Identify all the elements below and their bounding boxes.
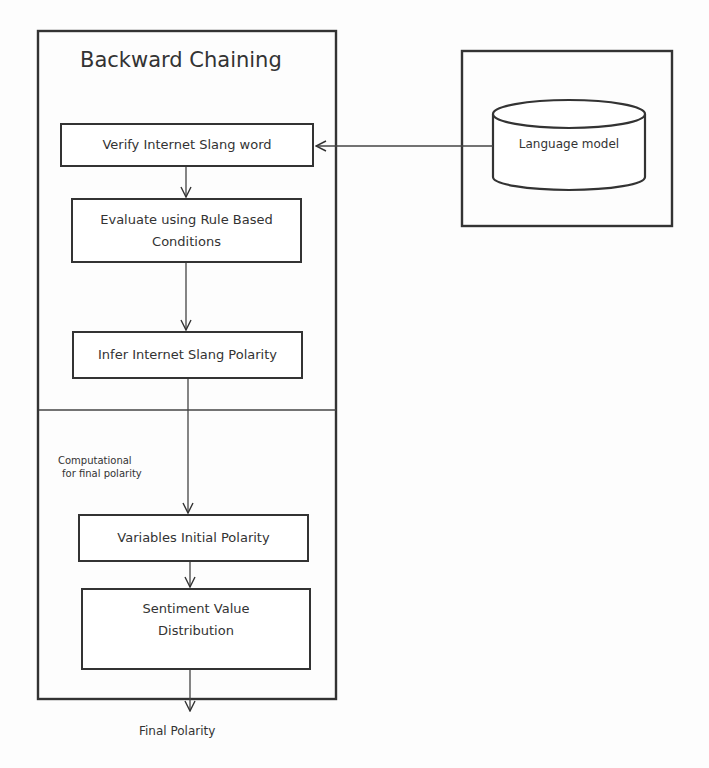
step-infer-label: Infer Internet Slang Polarity bbox=[98, 344, 277, 366]
final-polarity-label: Final Polarity bbox=[139, 724, 215, 738]
step-infer-slang-polarity: Infer Internet Slang Polarity bbox=[72, 331, 303, 379]
step-sentiment-value-distribution: Sentiment Value Distribution bbox=[81, 588, 311, 670]
computational-label-line2: for final polarity bbox=[58, 467, 142, 480]
backward-chaining-title: Backward Chaining bbox=[80, 48, 282, 72]
step-verify-internet-slang: Verify Internet Slang word bbox=[60, 123, 314, 167]
computational-label-line1: Computational bbox=[58, 454, 142, 467]
language-model-label: Language model bbox=[493, 137, 645, 151]
step-sentiment-label: Sentiment Value Distribution bbox=[133, 598, 259, 642]
step-variables-initial-polarity: Variables Initial Polarity bbox=[78, 514, 309, 562]
step-evaluate-label: Evaluate using Rule Based Conditions bbox=[95, 209, 278, 253]
step-verify-label: Verify Internet Slang word bbox=[102, 134, 271, 156]
computational-section-label: Computational for final polarity bbox=[58, 454, 142, 480]
step-variables-label: Variables Initial Polarity bbox=[117, 527, 269, 549]
step-evaluate-rule-based: Evaluate using Rule Based Conditions bbox=[71, 198, 302, 263]
